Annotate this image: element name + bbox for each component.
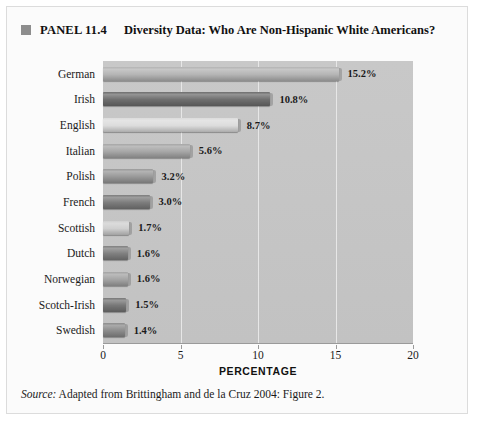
bar-value-label: 8.7% xyxy=(247,120,271,131)
bar-value-label: 3.0% xyxy=(159,196,183,207)
panel-title: Diversity Data: Who Are Non-Hispanic Whi… xyxy=(124,23,435,38)
source-text: Adapted from Brittingham and de la Cruz … xyxy=(59,388,325,400)
panel-number-label: PANEL 11.4 xyxy=(40,23,107,38)
bar-row: Polish3.2% xyxy=(103,164,413,190)
bar-row: German15.2% xyxy=(103,61,413,87)
bar-value-label: 5.6% xyxy=(199,145,223,156)
bar-chart: PERCENTAGE German15.2%Irish10.8%English8… xyxy=(7,51,469,381)
bar xyxy=(103,246,128,260)
bar-row: Italian5.6% xyxy=(103,138,413,164)
category-label: German xyxy=(7,68,103,80)
bar xyxy=(103,169,153,183)
bar xyxy=(103,221,129,235)
bar xyxy=(103,323,125,337)
category-label: Italian xyxy=(7,145,103,157)
bar-value-label: 3.2% xyxy=(162,171,186,182)
x-axis-tick-label: 5 xyxy=(178,349,184,361)
category-label: Scottish xyxy=(7,222,103,234)
category-label: English xyxy=(7,119,103,131)
category-label: Dutch xyxy=(7,247,103,259)
x-axis-tick-label: 20 xyxy=(407,349,419,361)
bar xyxy=(103,144,190,158)
bar-value-label: 1.5% xyxy=(135,299,159,310)
x-axis-tick-label: 0 xyxy=(100,349,106,361)
category-label: Swedish xyxy=(7,324,103,336)
source-label: Source: xyxy=(21,388,56,400)
panel-header: PANEL 11.4 Diversity Data: Who Are Non-H… xyxy=(7,19,467,41)
x-axis-title: PERCENTAGE xyxy=(103,365,413,377)
bar-row: French3.0% xyxy=(103,189,413,215)
bar-row: Irish10.8% xyxy=(103,87,413,113)
bar-row: Scottish1.7% xyxy=(103,215,413,241)
bar xyxy=(103,118,238,132)
bar-row: English8.7% xyxy=(103,112,413,138)
bar-row: Dutch1.6% xyxy=(103,240,413,266)
panel-figure: PANEL 11.4 Diversity Data: Who Are Non-H… xyxy=(6,6,468,414)
bar-row: Norwegian1.6% xyxy=(103,266,413,292)
category-label: French xyxy=(7,196,103,208)
bar xyxy=(103,298,126,312)
category-label: Polish xyxy=(7,170,103,182)
bar xyxy=(103,272,128,286)
bar-value-label: 1.7% xyxy=(138,222,162,233)
x-axis-tick-label: 10 xyxy=(252,349,264,361)
bar xyxy=(103,67,339,81)
bar-value-label: 10.8% xyxy=(279,94,308,105)
bar-value-label: 1.6% xyxy=(137,273,161,284)
bar xyxy=(103,92,270,106)
bar xyxy=(103,195,150,209)
category-label: Scotch-Irish xyxy=(7,299,103,311)
category-label: Irish xyxy=(7,93,103,105)
bar-row: Scotch-Irish1.5% xyxy=(103,292,413,318)
bar-value-label: 1.6% xyxy=(137,248,161,259)
bar-row: Swedish1.4% xyxy=(103,317,413,343)
bar-value-label: 15.2% xyxy=(348,68,377,79)
bar-value-label: 1.4% xyxy=(134,325,158,336)
panel-bullet-icon xyxy=(21,25,31,35)
x-axis-line xyxy=(103,343,413,344)
x-axis-tick-label: 15 xyxy=(330,349,342,361)
source-note: Source: Adapted from Brittingham and de … xyxy=(21,388,324,400)
category-label: Norwegian xyxy=(7,273,103,285)
